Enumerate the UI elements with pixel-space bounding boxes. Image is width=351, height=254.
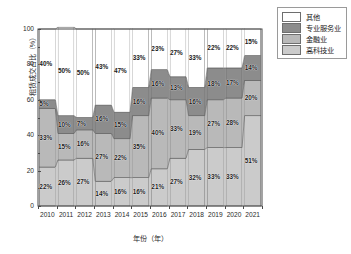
legend-swatch-high-tech <box>282 45 301 55</box>
legend-item-high-tech[interactable]: 高科技业 <box>282 44 341 55</box>
segment-value-label: 50% <box>58 67 71 74</box>
segment-value-label: 27% <box>77 178 90 185</box>
stack-connector <box>93 29 96 118</box>
y-tick-minor <box>38 153 40 154</box>
legend-label-professional-services: 专业服务业 <box>306 23 341 33</box>
segment-value-label: 33% <box>170 125 183 132</box>
x-tick <box>150 206 151 209</box>
segment-value-label: 5% <box>39 100 48 107</box>
segment-value-label: 20% <box>245 94 258 101</box>
x-tick-label: 2021 <box>240 211 266 218</box>
segment-value-label: 50% <box>77 69 90 76</box>
stack-connector <box>167 98 170 169</box>
segment-value-label: 28% <box>226 119 239 126</box>
segment-value-label: 33% <box>189 54 202 61</box>
segment-value-label: 22% <box>39 183 52 190</box>
y-tick-label: 80 <box>12 60 34 67</box>
legend-label-high-tech: 高科技业 <box>306 45 334 55</box>
x-tick <box>38 206 39 209</box>
segment-value-label: 17% <box>226 79 239 86</box>
segment-value-label: 40% <box>39 60 52 67</box>
x-tick <box>262 206 263 209</box>
segment-value-label: 19% <box>189 129 202 136</box>
segment-value-label: 27% <box>170 49 183 56</box>
segment-value-label: 51% <box>245 157 258 164</box>
legend-item-finance[interactable]: 金融业 <box>282 33 341 44</box>
segment-value-label: 22% <box>207 44 220 51</box>
segment-value-label: 16% <box>133 188 146 195</box>
y-tick-label: 40 <box>12 131 34 138</box>
chart-legend: 其他 专业服务业 金融业 高科技业 <box>277 7 347 59</box>
segment-value-label: 27% <box>207 120 220 127</box>
x-tick <box>75 206 76 209</box>
segment-value-label: 7% <box>77 120 86 127</box>
y-tick <box>38 171 41 172</box>
y-tick-label: 20 <box>12 167 34 174</box>
x-tick <box>243 206 244 209</box>
segment-value-label: 26% <box>58 179 71 186</box>
segment-value-label: 33% <box>133 54 146 61</box>
legend-item-other[interactable]: 其他 <box>282 11 341 22</box>
y-tick <box>38 29 41 30</box>
legend-label-finance: 金融业 <box>306 34 327 44</box>
legend-swatch-other <box>282 12 301 22</box>
y-tick-minor <box>38 82 40 83</box>
legend-label-other: 其他 <box>306 12 320 22</box>
segment-value-label: 16% <box>114 188 127 195</box>
x-tick <box>57 206 58 209</box>
x-tick <box>169 206 170 209</box>
segment-value-label: 16% <box>151 80 164 87</box>
segment-value-label: 43% <box>95 63 108 70</box>
segment-value-label: 32% <box>189 174 202 181</box>
segment-value-label: 35% <box>133 143 146 150</box>
stacked-area-chart: 租赁成交占比（%） 年份（年） 020406080100201020112012… <box>0 0 351 254</box>
y-tick-minor <box>38 47 40 48</box>
segment-value-label: 16% <box>189 98 202 105</box>
x-tick <box>187 206 188 209</box>
segment-value-label: 33% <box>39 134 52 141</box>
legend-item-professional-services[interactable]: 专业服务业 <box>282 22 341 33</box>
segment-value-label: 15% <box>245 38 258 45</box>
segment-value-label: 15% <box>114 121 127 128</box>
segment-value-label: 18% <box>207 80 220 87</box>
segment-value-label: 22% <box>226 44 239 51</box>
segment-value-label: 33% <box>207 173 220 180</box>
y-tick-minor <box>38 118 40 119</box>
segment-value-label: 15% <box>58 143 71 150</box>
segment-value-label: 23% <box>151 45 164 52</box>
segment-value-label: 16% <box>133 98 146 105</box>
segment-value-label: 47% <box>114 67 127 74</box>
x-tick <box>113 206 114 209</box>
x-tick <box>131 206 132 209</box>
segment-value-label: 16% <box>77 140 90 147</box>
x-tick <box>225 206 226 209</box>
segment-value-label: 16% <box>95 115 108 122</box>
segment-value-label: 14% <box>245 64 258 71</box>
segment-value-label: 27% <box>95 153 108 160</box>
segment-value-label: 27% <box>170 178 183 185</box>
segment-value-label: 21% <box>151 183 164 190</box>
x-tick <box>94 206 95 209</box>
y-tick-label: 100 <box>12 25 34 32</box>
x-tick <box>206 206 207 209</box>
segment-value-label: 13% <box>170 84 183 91</box>
segment-value-label: 22% <box>114 154 127 161</box>
segment-value-label: 33% <box>226 173 239 180</box>
y-tick-label: 0 <box>12 202 34 209</box>
legend-swatch-professional-services <box>282 23 301 33</box>
segment-value-label: 40% <box>151 129 164 136</box>
segment-value-label: 14% <box>95 190 108 197</box>
y-tick-label: 60 <box>12 96 34 103</box>
legend-swatch-finance <box>282 34 301 44</box>
segment-value-label: 10% <box>58 121 71 128</box>
